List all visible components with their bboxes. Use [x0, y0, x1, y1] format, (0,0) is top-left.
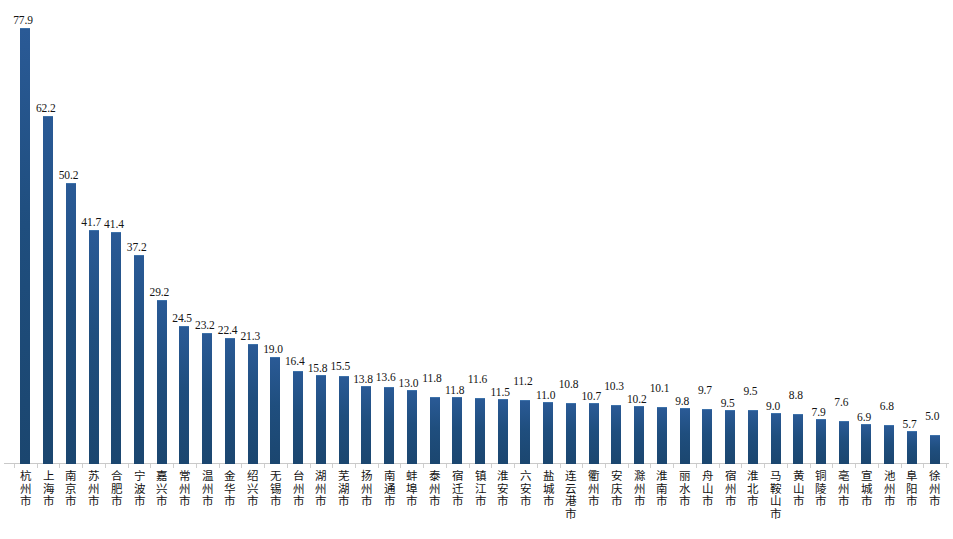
axis-tick: [82, 464, 83, 468]
bar-宁波市[interactable]: [134, 0, 144, 465]
category-label: 上海市: [42, 470, 55, 508]
axis-tick: [582, 464, 583, 468]
bar-value-label: 11.5: [491, 386, 510, 398]
bar-value-label: 11.6: [468, 373, 487, 385]
bar-rect[interactable]: [89, 230, 99, 464]
bar-杭州市[interactable]: [20, 0, 30, 465]
bar-rect[interactable]: [680, 408, 690, 464]
bar-宣城市[interactable]: [861, 0, 871, 465]
category-label: 湖州市: [314, 470, 327, 508]
bar-rect[interactable]: [771, 413, 781, 464]
bar-扬州市[interactable]: [361, 0, 371, 465]
bar-徐州市[interactable]: [930, 0, 940, 465]
bar-六安市[interactable]: [520, 0, 530, 465]
bar-蚌埠市[interactable]: [407, 0, 417, 465]
bar-泰州市[interactable]: [430, 0, 440, 465]
bar-rect[interactable]: [907, 431, 917, 464]
bar-value-label: 6.9: [857, 411, 871, 423]
bar-rect[interactable]: [293, 371, 303, 464]
bar-铜陵市[interactable]: [816, 0, 826, 465]
bar-rect[interactable]: [498, 399, 508, 464]
bar-rect[interactable]: [793, 414, 803, 464]
bar-rect[interactable]: [225, 338, 235, 464]
bar-湖州市[interactable]: [316, 0, 326, 465]
bar-合肥市[interactable]: [111, 0, 121, 465]
bar-绍兴市[interactable]: [248, 0, 258, 465]
bar-value-label: 10.2: [627, 393, 647, 405]
axis-tick: [128, 464, 129, 468]
bar-芜湖市[interactable]: [339, 0, 349, 465]
bar-rect[interactable]: [816, 419, 826, 464]
bar-安庆市[interactable]: [611, 0, 621, 465]
bar-rect[interactable]: [884, 425, 894, 464]
category-label: 温州市: [201, 470, 214, 508]
bar-rect[interactable]: [111, 232, 121, 464]
category-label: 台州市: [292, 470, 305, 508]
bar-淮南市[interactable]: [657, 0, 667, 465]
bar-rect[interactable]: [339, 376, 349, 464]
axis-tick: [150, 464, 151, 468]
bar-rect[interactable]: [248, 344, 258, 464]
axis-tick: [878, 464, 879, 468]
bar-rect[interactable]: [452, 397, 462, 464]
bar-rect[interactable]: [702, 409, 712, 464]
bar-rect[interactable]: [134, 255, 144, 464]
bar-value-label: 77.9: [13, 14, 33, 26]
bar-rect[interactable]: [611, 405, 621, 464]
bar-无锡市[interactable]: [270, 0, 280, 465]
bar-rect[interactable]: [520, 400, 530, 464]
bar-rect[interactable]: [361, 386, 371, 464]
bar-苏州市[interactable]: [89, 0, 99, 465]
category-label: 池州市: [883, 470, 896, 508]
axis-tick: [628, 464, 629, 468]
bar-台州市[interactable]: [293, 0, 303, 465]
bar-rect[interactable]: [589, 403, 599, 464]
bar-阜阳市[interactable]: [907, 0, 917, 465]
axis-tick: [514, 464, 515, 468]
bar-rect[interactable]: [270, 357, 280, 464]
bar-温州市[interactable]: [202, 0, 212, 465]
bar-上海市[interactable]: [43, 0, 53, 465]
bar-南京市[interactable]: [66, 0, 76, 465]
bar-rect[interactable]: [202, 333, 212, 464]
bar-rect[interactable]: [157, 300, 167, 464]
bar-rect[interactable]: [634, 406, 644, 464]
bar-嘉兴市[interactable]: [157, 0, 167, 465]
category-label: 亳州市: [837, 470, 850, 508]
bar-rect[interactable]: [475, 398, 485, 464]
bar-rect[interactable]: [748, 410, 758, 464]
bar-rect[interactable]: [839, 421, 849, 464]
bar-rect[interactable]: [930, 435, 940, 464]
bar-rect[interactable]: [316, 375, 326, 464]
category-label: 泰州市: [428, 470, 441, 508]
bar-rect[interactable]: [66, 183, 76, 464]
bar-常州市[interactable]: [179, 0, 189, 465]
bar-rect[interactable]: [43, 116, 53, 464]
category-label: 阜阳市: [905, 470, 918, 508]
axis-tick: [946, 464, 947, 468]
bar-rect[interactable]: [20, 28, 30, 464]
bar-马鞍山市[interactable]: [771, 0, 781, 465]
category-label: 安庆市: [610, 470, 623, 508]
bar-rect[interactable]: [725, 410, 735, 464]
axis-tick: [901, 464, 902, 468]
bar-南通市[interactable]: [384, 0, 394, 465]
bar-rect[interactable]: [657, 407, 667, 464]
bar-宿州市[interactable]: [725, 0, 735, 465]
bar-金华市[interactable]: [225, 0, 235, 465]
category-label: 合肥市: [110, 470, 123, 508]
bar-rect[interactable]: [407, 390, 417, 464]
bar-rect[interactable]: [179, 326, 189, 464]
bar-chart: 77.962.250.241.741.437.229.224.523.222.4…: [0, 0, 953, 539]
bar-镇江市[interactable]: [475, 0, 485, 465]
category-label: 徐州市: [928, 470, 941, 508]
bar-rect[interactable]: [861, 424, 871, 464]
bar-rect[interactable]: [543, 402, 553, 464]
bar-value-label: 50.2: [59, 169, 79, 181]
bar-value-label: 23.2: [195, 319, 215, 331]
bar-rect[interactable]: [430, 397, 440, 464]
bar-池州市[interactable]: [884, 0, 894, 465]
bar-rect[interactable]: [566, 403, 576, 464]
bar-rect[interactable]: [384, 387, 394, 464]
bar-连云港市[interactable]: [566, 0, 576, 465]
